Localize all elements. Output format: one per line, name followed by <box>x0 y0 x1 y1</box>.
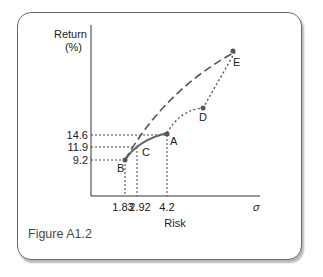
label-b: B <box>117 162 124 174</box>
x-tick-2-92: 2.92 <box>129 201 150 213</box>
label-d: D <box>199 111 207 123</box>
guide-lines <box>91 135 167 196</box>
label-a: A <box>170 135 178 147</box>
label-c: C <box>142 146 150 158</box>
point-a <box>165 132 170 137</box>
y-tick-14-6: 14.6 <box>67 129 88 141</box>
y-tick-11-9: 11.9 <box>67 141 88 153</box>
x-tick-4-2: 4.2 <box>159 201 174 213</box>
sigma-symbol: σ <box>253 201 260 213</box>
y-tick-9-2: 9.2 <box>73 154 88 166</box>
figure-caption: Figure A1.2 <box>28 227 92 241</box>
point-d <box>201 106 206 111</box>
y-axis-label-line2: (%) <box>65 41 82 53</box>
x-axis-label: Risk <box>164 217 186 229</box>
point-e <box>231 49 236 54</box>
y-axis-label-line1: Return <box>54 28 87 40</box>
label-e: E <box>233 56 240 68</box>
